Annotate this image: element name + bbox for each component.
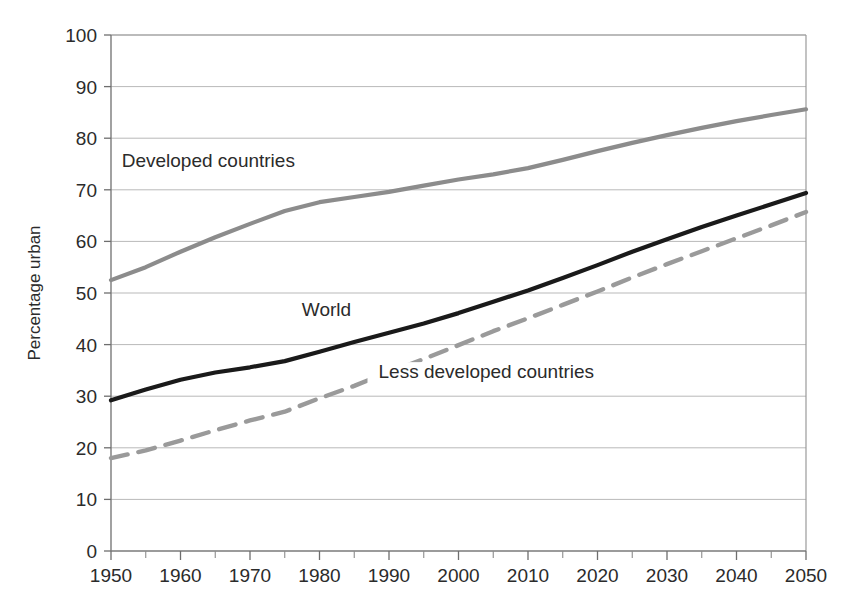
x-tick-label-1950: 1950 <box>90 565 132 586</box>
y-tick-label-40: 40 <box>76 335 97 356</box>
x-tick-label-2010: 2010 <box>507 565 549 586</box>
gridlines <box>111 35 806 499</box>
x-tick-label-2040: 2040 <box>715 565 757 586</box>
x-axis-ticks: 1950196019701980199020002010202020302040… <box>90 551 827 586</box>
series-label-developed-countries: Developed countries <box>122 150 295 171</box>
series-label-world: World <box>302 299 351 320</box>
y-tick-label-100: 100 <box>65 25 97 46</box>
urbanization-line-chart: 0102030405060708090100 19501960197019801… <box>0 0 852 611</box>
y-tick-label-60: 60 <box>76 231 97 252</box>
x-tick-label-1990: 1990 <box>368 565 410 586</box>
y-tick-label-70: 70 <box>76 180 97 201</box>
y-axis-label: Percentage urban <box>25 225 44 360</box>
x-tick-label-2050: 2050 <box>785 565 827 586</box>
series-line-developed-countries <box>111 109 806 280</box>
series-line-less-developed-countries <box>111 212 806 458</box>
y-tick-label-50: 50 <box>76 283 97 304</box>
x-tick-label-2000: 2000 <box>437 565 479 586</box>
series-annotations: Developed countriesWorldLess developed c… <box>113 150 605 387</box>
y-axis-title: Percentage urban <box>25 225 44 360</box>
y-tick-label-30: 30 <box>76 386 97 407</box>
x-tick-label-1980: 1980 <box>298 565 340 586</box>
y-tick-label-90: 90 <box>76 77 97 98</box>
x-tick-label-1970: 1970 <box>229 565 271 586</box>
y-tick-label-0: 0 <box>86 541 97 562</box>
x-tick-label-2030: 2030 <box>646 565 688 586</box>
y-tick-label-20: 20 <box>76 438 97 459</box>
y-tick-label-80: 80 <box>76 128 97 149</box>
y-axis-ticks: 0102030405060708090100 <box>65 25 111 562</box>
y-tick-label-10: 10 <box>76 489 97 510</box>
x-tick-label-1960: 1960 <box>159 565 201 586</box>
x-tick-label-2020: 2020 <box>576 565 618 586</box>
chart-canvas: 0102030405060708090100 19501960197019801… <box>0 0 852 611</box>
series-label-less-developed-countries: Less developed countries <box>379 361 594 382</box>
